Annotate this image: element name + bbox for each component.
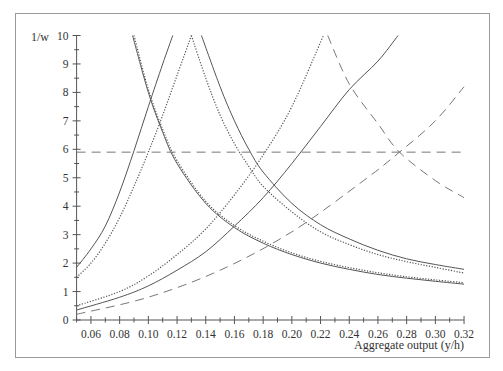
dotted-increasing-steep-line xyxy=(77,36,192,278)
x-tick-label: 0.20 xyxy=(282,328,302,340)
x-tick-label: 0.10 xyxy=(138,328,158,340)
solid-increasing-shallow-line xyxy=(77,36,398,311)
y-axis-title: 1/w xyxy=(31,30,49,44)
y-tick-label: 9 xyxy=(63,58,69,70)
x-tick-label: 0.22 xyxy=(310,328,330,340)
y-tick-label: 2 xyxy=(63,257,69,269)
y-tick-label: 6 xyxy=(63,143,69,155)
y-tick-label: 8 xyxy=(63,86,69,98)
line-chart: 012345678910 0.060.080.100.120.140.160.1… xyxy=(0,0,503,371)
y-tick-label: 0 xyxy=(63,314,69,326)
dashed-decreasing-line xyxy=(328,36,464,198)
dotted-decreasing-lower-line xyxy=(134,36,464,283)
x-tick-label: 0.16 xyxy=(224,328,244,340)
solid-decreasing-lower-line xyxy=(133,36,464,285)
x-axis-title: Aggregate output (y/h) xyxy=(354,338,464,352)
y-axis: 012345678910 xyxy=(57,30,81,327)
y-tick-label: 3 xyxy=(63,229,69,241)
y-tick-label: 4 xyxy=(63,200,69,212)
x-tick-label: 0.14 xyxy=(196,328,216,340)
x-tick-label: 0.06 xyxy=(81,328,101,340)
x-axis: 0.060.080.100.120.140.160.180.200.220.24… xyxy=(77,316,475,340)
y-tick-label: 7 xyxy=(63,115,69,127)
x-tick-label: 0.12 xyxy=(167,328,187,340)
dashed-increasing-line xyxy=(77,87,464,315)
series-group xyxy=(77,36,464,315)
x-tick-label: 0.18 xyxy=(253,328,273,340)
y-tick-label: 5 xyxy=(63,172,69,184)
y-tick-label: 1 xyxy=(63,286,69,298)
solid-increasing-steep-line xyxy=(77,36,173,268)
x-tick-label: 0.08 xyxy=(110,328,130,340)
dotted-decreasing-upper-line xyxy=(191,36,464,274)
y-tick-label: 10 xyxy=(57,30,69,42)
